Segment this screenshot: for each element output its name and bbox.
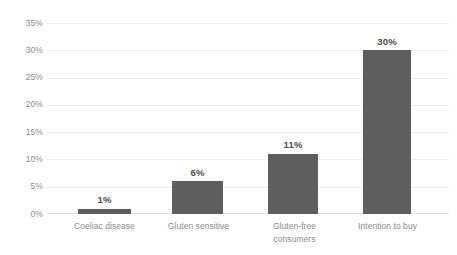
bar-intention-to-buy [363, 50, 411, 214]
bar-coeliac-disease [78, 209, 131, 215]
category-label-line-2: consumers [247, 233, 342, 246]
category-label-line-1: Coeliac disease [57, 220, 152, 233]
category-label-gluten-free-consumers: Gluten-free consumers [247, 220, 342, 246]
category-label-coeliac-disease: Coeliac disease [57, 220, 152, 233]
bar-chart: 35% 30% 25% 20% 15% 10% 5% 0% 1% 6% 11% … [0, 0, 457, 255]
bar-gluten-sensitive [172, 181, 223, 214]
y-tick-label-5: 5% [3, 182, 43, 191]
y-tick-label-10: 10% [3, 155, 43, 164]
y-tick-label-35: 35% [3, 19, 43, 28]
y-tick-label-0: 0% [3, 210, 43, 219]
bar-value-label-intention-to-buy: 30% [363, 37, 411, 47]
gridline-35 [47, 23, 449, 24]
category-label-intention-to-buy: Intention to buy [340, 220, 435, 233]
bar-gluten-free-consumers [268, 154, 318, 214]
category-label-line-1: Gluten-free [247, 220, 342, 233]
category-label-line-1: Intention to buy [340, 220, 435, 233]
y-tick-label-20: 20% [3, 100, 43, 109]
bar-value-label-gluten-free-consumers: 11% [268, 140, 318, 150]
category-label-line-1: Gluten sensitive [151, 220, 246, 233]
y-tick-label-25: 25% [3, 73, 43, 82]
y-tick-label-15: 15% [3, 128, 43, 137]
plot-area [47, 23, 449, 214]
category-label-gluten-sensitive: Gluten sensitive [151, 220, 246, 233]
y-tick-label-30: 30% [3, 46, 43, 55]
bar-value-label-coeliac-disease: 1% [78, 195, 131, 205]
bar-value-label-gluten-sensitive: 6% [172, 168, 223, 178]
